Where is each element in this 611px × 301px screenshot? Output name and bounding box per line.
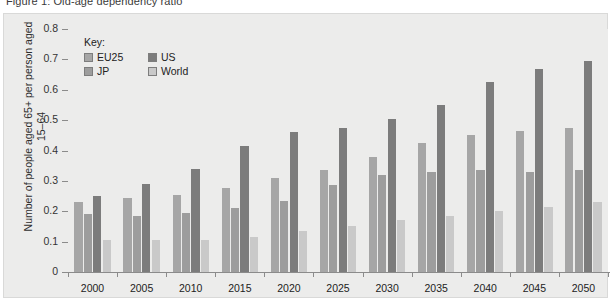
x-axis-tick bbox=[363, 272, 364, 277]
bar-jp-2030 bbox=[378, 175, 386, 272]
legend-label-world: World bbox=[161, 65, 188, 77]
bar-jp-2020 bbox=[280, 201, 288, 272]
x-axis-tick bbox=[215, 272, 216, 277]
legend-row: JP World bbox=[84, 65, 212, 77]
bar-world-2000 bbox=[103, 240, 111, 272]
bar-eu25-2005 bbox=[123, 198, 131, 272]
bar-us-2035 bbox=[437, 105, 445, 272]
legend-swatch-us bbox=[148, 53, 157, 62]
bar-world-2005 bbox=[152, 240, 160, 272]
bar-us-2005 bbox=[142, 184, 150, 272]
x-axis-tick bbox=[117, 272, 118, 277]
legend-item-eu25: EU25 bbox=[84, 51, 148, 63]
x-axis-tick-label: 2020 bbox=[266, 282, 312, 294]
bar-world-2010 bbox=[201, 240, 209, 272]
bar-world-2030 bbox=[397, 220, 405, 272]
bar-us-2045 bbox=[535, 69, 543, 273]
chart-title-strip: Figure 1: Old-age dependency ratio bbox=[0, 0, 611, 13]
chart-panel: Number of people aged 65+ per person age… bbox=[3, 13, 608, 298]
x-axis-tick bbox=[166, 272, 167, 277]
legend-item-world: World bbox=[148, 65, 212, 77]
x-axis-tick bbox=[68, 272, 69, 277]
legend-swatch-jp bbox=[84, 67, 93, 76]
x-axis-tick bbox=[559, 272, 560, 277]
bar-jp-2005 bbox=[133, 216, 141, 272]
bar-jp-2015 bbox=[231, 208, 239, 272]
x-axis-tick-label: 2015 bbox=[217, 282, 263, 294]
bar-eu25-2030 bbox=[369, 157, 377, 272]
y-axis-tick-label: 0 bbox=[4, 265, 58, 277]
chart-title: Figure 1: Old-age dependency ratio bbox=[6, 0, 182, 7]
bar-world-2025 bbox=[348, 226, 356, 272]
chart-figure: Figure 1: Old-age dependency ratio Numbe… bbox=[0, 0, 611, 301]
legend-title: Key: bbox=[84, 36, 212, 48]
x-axis-tick-label: 2010 bbox=[168, 282, 214, 294]
bar-us-2015 bbox=[240, 146, 248, 272]
bar-world-2040 bbox=[495, 211, 503, 272]
legend-label-eu25: EU25 bbox=[97, 51, 123, 63]
legend-row: EU25 US bbox=[84, 51, 212, 63]
bar-jp-2045 bbox=[526, 172, 534, 272]
bar-jp-2025 bbox=[329, 185, 337, 272]
bar-eu25-2000 bbox=[74, 202, 82, 272]
chart-legend: Key: EU25 US JP World bbox=[84, 36, 212, 79]
x-axis-tick bbox=[510, 272, 511, 277]
bar-us-2040 bbox=[486, 82, 494, 272]
bar-us-2010 bbox=[191, 169, 199, 272]
y-axis-tick-label: 0.3 bbox=[4, 174, 58, 186]
legend-item-us: US bbox=[148, 51, 212, 63]
x-axis-tick-label: 2005 bbox=[119, 282, 165, 294]
bar-eu25-2045 bbox=[516, 131, 524, 272]
bar-us-2030 bbox=[388, 119, 396, 272]
x-axis-tick bbox=[412, 272, 413, 277]
bar-world-2045 bbox=[544, 207, 552, 272]
bar-us-2050 bbox=[584, 61, 592, 272]
bar-us-2020 bbox=[290, 132, 298, 272]
bar-eu25-2010 bbox=[173, 195, 181, 272]
y-axis-tick-label: 0.8 bbox=[4, 22, 58, 34]
bar-us-2000 bbox=[93, 196, 101, 272]
x-axis-tick-label: 2045 bbox=[511, 282, 557, 294]
x-axis-tick-label: 2035 bbox=[413, 282, 459, 294]
bar-eu25-2015 bbox=[222, 188, 230, 272]
x-axis-tick bbox=[461, 272, 462, 277]
bar-world-2020 bbox=[299, 231, 307, 272]
x-axis-tick-label: 2025 bbox=[315, 282, 361, 294]
y-axis-tick-label: 0.1 bbox=[4, 235, 58, 247]
y-axis-tick-label: 0.2 bbox=[4, 204, 58, 216]
bar-eu25-2040 bbox=[467, 135, 475, 272]
x-axis-line bbox=[68, 272, 610, 273]
x-axis-tick-label: 2030 bbox=[364, 282, 410, 294]
bar-jp-2040 bbox=[476, 170, 484, 272]
x-axis-tick bbox=[608, 272, 609, 277]
legend-swatch-world bbox=[148, 67, 157, 76]
legend-item-jp: JP bbox=[84, 65, 148, 77]
bar-jp-2035 bbox=[427, 172, 435, 272]
legend-label-us: US bbox=[161, 51, 176, 63]
x-axis-tick bbox=[264, 272, 265, 277]
bar-jp-2010 bbox=[182, 213, 190, 272]
y-axis-tick-label: 0.5 bbox=[4, 113, 58, 125]
legend-swatch-eu25 bbox=[84, 53, 93, 62]
x-axis-tick-label: 2000 bbox=[70, 282, 116, 294]
y-axis-tick-label: 0.4 bbox=[4, 144, 58, 156]
legend-label-jp: JP bbox=[97, 65, 109, 77]
bar-eu25-2025 bbox=[320, 170, 328, 272]
bar-eu25-2050 bbox=[565, 128, 573, 272]
x-axis-tick-label: 2050 bbox=[560, 282, 606, 294]
bar-eu25-2035 bbox=[418, 143, 426, 272]
x-axis-tick bbox=[313, 272, 314, 277]
bar-world-2015 bbox=[250, 237, 258, 272]
bar-jp-2050 bbox=[575, 170, 583, 272]
y-axis-tick-label: 0.6 bbox=[4, 83, 58, 95]
bar-world-2050 bbox=[593, 202, 601, 272]
x-axis-tick-label: 2040 bbox=[462, 282, 508, 294]
bar-us-2025 bbox=[339, 128, 347, 272]
bar-eu25-2020 bbox=[271, 178, 279, 272]
bar-world-2035 bbox=[446, 216, 454, 272]
bar-jp-2000 bbox=[84, 214, 92, 272]
y-axis-tick-label: 0.7 bbox=[4, 52, 58, 64]
